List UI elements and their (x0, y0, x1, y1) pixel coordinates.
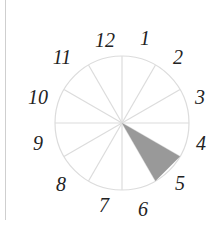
hour-label-9: 9 (33, 132, 43, 154)
hour-label-4: 4 (196, 132, 206, 154)
hour-label-8: 8 (56, 173, 66, 195)
spoke-line (89, 123, 123, 181)
shaded-sector (122, 123, 180, 181)
hour-label-5: 5 (175, 172, 185, 194)
spoke-line (64, 90, 122, 124)
hour-label-10: 10 (28, 86, 48, 108)
spoke-line (64, 123, 122, 157)
hour-label-6: 6 (138, 198, 148, 220)
clock-diagram: 121234567891011 (0, 0, 224, 227)
hour-label-1: 1 (140, 27, 150, 49)
spoke-line (89, 65, 123, 123)
hour-label-12: 12 (95, 29, 115, 51)
hour-label-11: 11 (53, 46, 72, 68)
hour-label-7: 7 (99, 194, 110, 216)
spoke-line (122, 65, 156, 123)
hour-label-2: 2 (173, 46, 183, 68)
hour-label-3: 3 (194, 86, 205, 108)
spoke-line (122, 90, 180, 124)
